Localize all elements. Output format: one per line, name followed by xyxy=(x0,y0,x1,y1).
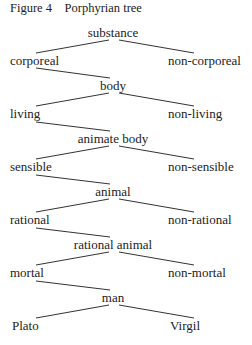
node-genus: rational animal xyxy=(74,238,152,252)
node-species: man xyxy=(102,291,124,305)
edge-body-living xyxy=(36,93,109,106)
edge-man-plato xyxy=(36,305,109,318)
node-individual-left: Plato xyxy=(12,319,39,333)
node-differentia-right: non-corporeal xyxy=(168,54,241,68)
edge-substance-corporeal xyxy=(36,40,109,53)
node-differentia-right: non-living xyxy=(168,107,222,121)
edge-mortal-man xyxy=(36,281,110,290)
node-genus: substance xyxy=(88,26,139,40)
edge-animal-nonrational xyxy=(119,199,194,212)
node-differentia-left: living xyxy=(10,107,40,121)
edge-animatebody-nonsensible xyxy=(119,146,194,159)
edge-sensible-animal xyxy=(36,175,110,184)
edge-man-virgil xyxy=(119,305,194,318)
edge-corporeal-body xyxy=(36,68,110,78)
node-differentia-left: mortal xyxy=(10,266,44,280)
node-differentia-right: non-sensible xyxy=(168,160,234,174)
node-genus: animal xyxy=(95,185,130,199)
node-individual-right: Virgil xyxy=(170,319,200,333)
node-differentia-right: non-mortal xyxy=(168,266,226,280)
edge-animatebody-sensible xyxy=(36,146,109,159)
node-differentia-left: rational xyxy=(10,213,50,227)
node-genus: body xyxy=(100,79,126,93)
node-genus: animate body xyxy=(78,132,148,146)
edge-rationalanimal-mortal xyxy=(36,252,109,265)
edge-living-animatebody xyxy=(36,122,110,131)
edge-rational-rationalanimal xyxy=(36,228,110,237)
node-differentia-left: sensible xyxy=(10,160,52,174)
edge-substance-noncorporeal xyxy=(119,40,194,53)
edge-animal-rational xyxy=(36,199,109,212)
edge-rationalanimal-nonmortal xyxy=(119,252,194,265)
node-differentia-left: corporeal xyxy=(10,54,59,68)
node-differentia-right: non-rational xyxy=(168,213,232,227)
edge-body-nonliving xyxy=(119,93,194,106)
